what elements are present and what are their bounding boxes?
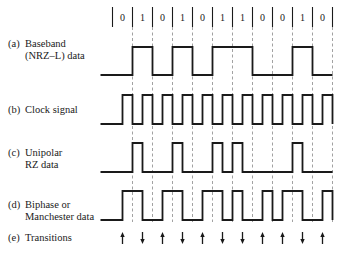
bit-value: 0 bbox=[120, 12, 125, 23]
waveform-nrz-l bbox=[101, 47, 333, 75]
arrow-down-icon bbox=[220, 232, 224, 244]
bit-value: 0 bbox=[280, 12, 285, 23]
transition-arrows bbox=[120, 232, 324, 244]
bit-value: 0 bbox=[200, 12, 205, 23]
bit-value: 0 bbox=[260, 12, 265, 23]
waveforms bbox=[101, 47, 333, 220]
arrow-up-icon bbox=[160, 232, 164, 244]
waveform-unipolar-rz bbox=[101, 143, 333, 172]
bit-value: 1 bbox=[220, 12, 225, 23]
bit-value: 1 bbox=[140, 12, 145, 23]
bit-value: 0 bbox=[160, 12, 165, 23]
arrow-down-icon bbox=[300, 232, 304, 244]
bit-value: 0 bbox=[320, 12, 325, 23]
arrow-up-icon bbox=[260, 232, 264, 244]
bit-value: 1 bbox=[240, 12, 245, 23]
arrow-up-icon bbox=[320, 232, 324, 244]
bit-value: 1 bbox=[300, 12, 305, 23]
waveform-diagram: 01010110010 bbox=[0, 0, 348, 260]
bit-value: 1 bbox=[180, 12, 185, 23]
arrow-down-icon bbox=[240, 232, 244, 244]
arrow-down-icon bbox=[180, 232, 184, 244]
arrow-down-icon bbox=[140, 232, 144, 244]
waveform-clock bbox=[101, 95, 333, 124]
arrow-up-icon bbox=[280, 232, 284, 244]
bit-sequence-header: 01010110010 bbox=[113, 7, 333, 27]
arrow-up-icon bbox=[200, 232, 204, 244]
arrow-up-icon bbox=[120, 232, 124, 244]
waveform-manchester bbox=[101, 191, 333, 220]
